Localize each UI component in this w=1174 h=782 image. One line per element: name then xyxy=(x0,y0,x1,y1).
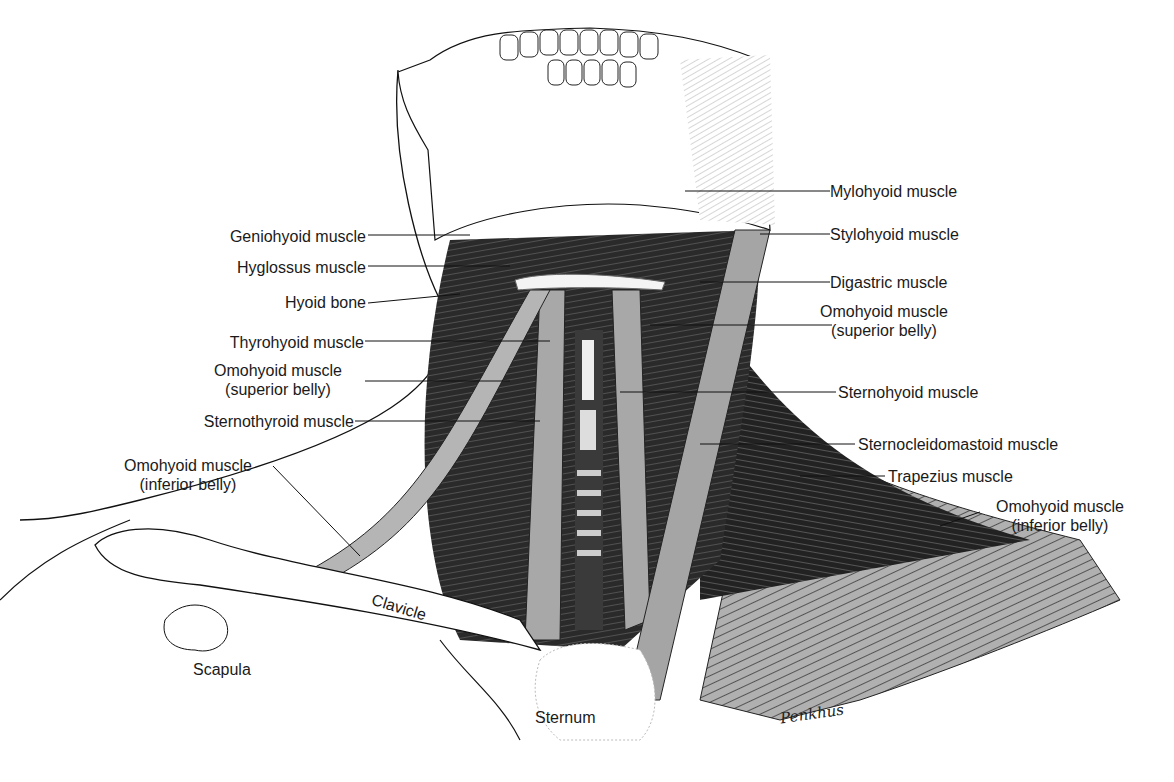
label-digastric: Digastric muscle xyxy=(830,273,947,292)
label-line-2: (inferior belly) xyxy=(100,475,276,494)
label-omohyoid-inferior-right: Omohyoid muscle (inferior belly) xyxy=(972,497,1148,535)
label-sternocleidomastoid: Sternocleidomastoid muscle xyxy=(858,435,1058,454)
anatomy-drawing xyxy=(0,0,1174,782)
label-line-2: (inferior belly) xyxy=(972,516,1148,535)
label-scapula: Scapula xyxy=(193,660,251,679)
label-trapezius: Trapezius muscle xyxy=(888,467,1013,486)
neck-outline-left xyxy=(20,70,446,520)
label-stylohyoid: Stylohyoid muscle xyxy=(830,225,959,244)
label-line-2: (superior belly) xyxy=(190,380,366,399)
label-hyoid-bone: Hyoid bone xyxy=(285,293,366,312)
label-line-1: Omohyoid muscle xyxy=(796,302,972,321)
label-omohyoid-superior-right: Omohyoid muscle (superior belly) xyxy=(796,302,972,340)
scapula xyxy=(164,605,228,651)
label-sternum: Sternum xyxy=(535,708,595,727)
label-sternohyoid: Sternohyoid muscle xyxy=(838,383,979,402)
label-line-2: (superior belly) xyxy=(796,321,972,340)
label-hyoglossus: Hyglossus muscle xyxy=(237,258,366,277)
label-mylohyoid: Mylohyoid muscle xyxy=(830,182,957,201)
label-sternothyroid: Sternothyroid muscle xyxy=(204,412,354,431)
label-thyrohyoid: Thyrohyoid muscle xyxy=(230,333,364,352)
label-line-1: Omohyoid muscle xyxy=(100,456,276,475)
label-line-1: Omohyoid muscle xyxy=(190,361,366,380)
label-geniohyoid: Geniohyoid muscle xyxy=(230,227,366,246)
label-omohyoid-inferior-left: Omohyoid muscle (inferior belly) xyxy=(100,456,276,494)
label-omohyoid-superior-left: Omohyoid muscle (superior belly) xyxy=(190,361,366,399)
neck-muscles-illustration: Geniohyoid muscle Hyglossus muscle Hyoid… xyxy=(0,0,1174,782)
label-line-1: Omohyoid muscle xyxy=(972,497,1148,516)
